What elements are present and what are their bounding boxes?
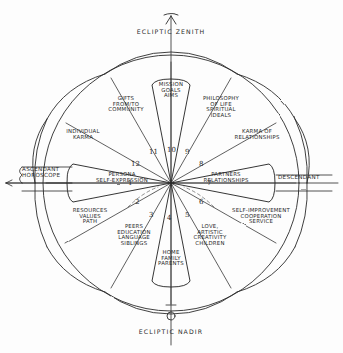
ascendant-brace: [6, 167, 72, 191]
house-number-7: 7: [207, 179, 211, 187]
house-number-8: 8: [199, 160, 203, 168]
house-number-1: 1: [128, 179, 132, 187]
diagram-canvas: ECLIPTIC ZENITH ECLIPTIC NADIR ASCENDANT…: [0, 0, 343, 353]
house-number-10: 10: [167, 146, 176, 154]
house-number-12: 12: [131, 160, 140, 168]
astrology-wheel-svg: [0, 0, 343, 353]
house-number-5: 5: [185, 211, 189, 219]
house-number-3: 3: [149, 211, 153, 219]
house-number-9: 9: [185, 148, 189, 156]
house-number-2: 2: [135, 198, 139, 206]
house-number-11: 11: [149, 148, 158, 156]
house-number-6: 6: [199, 198, 203, 206]
house-number-4: 4: [167, 214, 171, 222]
